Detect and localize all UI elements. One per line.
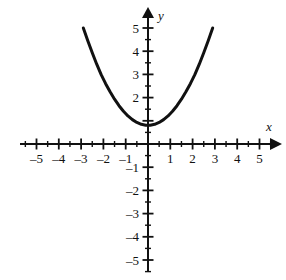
y-tick-label: –4 xyxy=(125,229,140,244)
y-tick-label: –2 xyxy=(125,183,139,198)
x-tick-label: 3 xyxy=(212,151,219,166)
x-tick-label: –3 xyxy=(74,151,88,166)
y-tick-label: –5 xyxy=(125,253,139,268)
x-tick-label: 4 xyxy=(234,151,241,166)
x-tick-label: –5 xyxy=(29,151,43,166)
y-tick-label: –1 xyxy=(125,160,139,175)
x-axis-label: x xyxy=(265,119,272,134)
y-axis-label: y xyxy=(156,8,164,23)
x-tick-label: 5 xyxy=(256,151,263,166)
x-tick-label: –4 xyxy=(51,151,66,166)
x-tick-label: –2 xyxy=(96,151,110,166)
y-tick-label: 5 xyxy=(133,21,140,36)
coordinate-plane-svg: –5–4–3–2–1123455432–1–2–3–4–5 y x xyxy=(0,0,286,280)
y-axis xyxy=(142,7,154,272)
x-tick-label: 1 xyxy=(167,151,174,166)
x-tick-label: 2 xyxy=(189,151,196,166)
y-tick-label: 4 xyxy=(133,44,140,59)
y-tick-label: 2 xyxy=(133,90,140,105)
x-axis-arrowhead xyxy=(270,138,282,150)
y-tick-label: –3 xyxy=(125,206,139,221)
graph-figure: –5–4–3–2–1123455432–1–2–3–4–5 y x xyxy=(0,0,286,280)
y-tick-label: 3 xyxy=(133,67,140,82)
